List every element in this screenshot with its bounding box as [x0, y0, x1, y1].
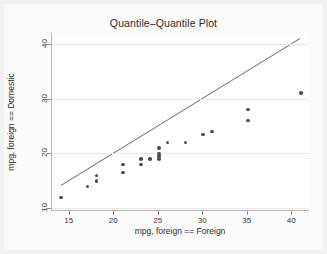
data-point — [139, 163, 143, 167]
y-tick-label-10: 10 — [41, 203, 50, 212]
gridline-y-10 — [52, 208, 309, 209]
x-tick-label-25: 25 — [153, 216, 162, 225]
plot-inner — [52, 33, 309, 210]
gridline-y-20 — [52, 153, 309, 154]
data-point — [246, 108, 250, 112]
data-point — [148, 157, 152, 161]
chart-figure: Quantile–Quantile Plot mpg, foreign == D… — [4, 4, 323, 250]
y-tick-label-30: 30 — [41, 94, 50, 103]
x-tick-label-15: 15 — [64, 216, 73, 225]
data-point — [157, 146, 161, 150]
page-title: Quantile–Quantile Plot — [4, 17, 323, 29]
x-tick-label-20: 20 — [109, 216, 118, 225]
reference-line — [52, 33, 309, 210]
data-point — [95, 179, 99, 183]
data-point — [299, 91, 303, 95]
data-point — [246, 119, 250, 123]
data-point — [59, 196, 63, 200]
x-tick-label-40: 40 — [287, 216, 296, 225]
x-tick-30 — [202, 211, 203, 215]
x-tick-40 — [291, 211, 292, 215]
y-tick-label-40: 40 — [41, 39, 50, 48]
x-tick-15 — [69, 211, 70, 215]
x-axis-title: mpg, foreign == Foreign — [51, 226, 309, 236]
x-tick-label-30: 30 — [198, 216, 207, 225]
x-tick-35 — [247, 211, 248, 215]
data-point — [139, 157, 143, 161]
x-tick-label-35: 35 — [242, 216, 251, 225]
y-tick-label-20: 20 — [41, 149, 50, 158]
plot-area — [51, 33, 309, 211]
x-tick-25 — [158, 211, 159, 215]
x-tick-20 — [113, 211, 114, 215]
gridline-y-30 — [52, 99, 309, 100]
data-point — [201, 133, 205, 137]
y-axis-ticks: 10203040 — [4, 33, 51, 211]
data-point — [157, 152, 161, 156]
screenshot-root: Quantile–Quantile Plot mpg, foreign == D… — [0, 0, 327, 254]
gridline-y-40 — [52, 44, 309, 45]
